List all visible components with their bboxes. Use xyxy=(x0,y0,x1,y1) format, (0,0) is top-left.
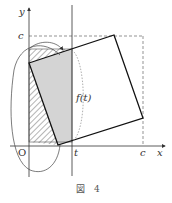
c-label-y: c xyxy=(18,30,24,41)
figure-diagram: y x O c c t f(t) 図 4 xyxy=(0,0,172,203)
figure-caption: 図 4 xyxy=(76,184,100,194)
t-label: t xyxy=(74,147,79,158)
y-axis-label: y xyxy=(18,6,25,17)
ft-label: f(t) xyxy=(75,92,92,103)
x-axis-label: x xyxy=(157,147,163,158)
origin-label: O xyxy=(18,147,26,158)
c-label-x: c xyxy=(140,147,146,158)
